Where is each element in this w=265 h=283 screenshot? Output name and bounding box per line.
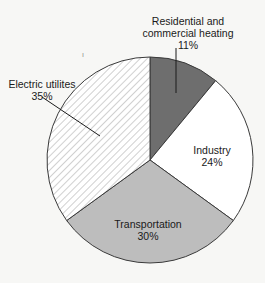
slice-label-line: commercial heating: [142, 27, 233, 39]
slice-label-electric-utilites: Electric utilites35%: [8, 78, 75, 102]
slice-percent: 30%: [137, 230, 158, 242]
slice-percent: 35%: [31, 90, 52, 102]
slice-label-line: Electric utilites: [8, 78, 75, 90]
slice-label-line: Industry: [193, 144, 231, 156]
slice-percent: 24%: [201, 156, 222, 168]
pie-chart: Residential andcommercial heating11%Indu…: [0, 0, 265, 283]
slice-label-residential-and-commercial-heating: Residential andcommercial heating11%: [142, 15, 233, 51]
slice-label-line: Residential and: [152, 15, 225, 27]
slice-percent: 11%: [178, 39, 198, 51]
stray-mark: ı: [82, 51, 84, 58]
slice-label-line: Transportation: [114, 218, 181, 230]
